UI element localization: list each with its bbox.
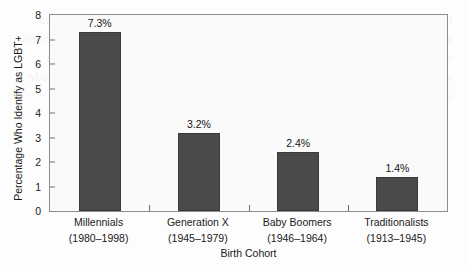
y-tick-label: 3 — [10, 132, 50, 143]
x-axis-separator-tick — [348, 205, 349, 211]
y-tick-label: 4 — [10, 108, 50, 119]
x-tick-label: Millennials(1980–1998) — [49, 216, 148, 245]
y-tick-label: 8 — [10, 10, 50, 21]
cohort-years: (1913–1945) — [347, 232, 446, 246]
x-tick-label: Generation X(1945–1979) — [148, 216, 247, 245]
cohort-name: Millennials — [49, 216, 148, 230]
cohort-years: (1946–1964) — [248, 232, 347, 246]
plot-inner: 0123456787.3%3.2%2.4%1.4% — [50, 15, 447, 211]
y-tick-mark — [50, 186, 55, 187]
y-tick-label: 2 — [10, 157, 50, 168]
cohort-name: Traditionalists — [347, 216, 446, 230]
bar-value-label: 7.3% — [60, 17, 140, 29]
x-tick-label: Traditionalists(1913–1945) — [347, 216, 446, 245]
cohort-years: (1980–1998) — [49, 232, 148, 246]
y-tick-mark — [50, 162, 55, 163]
cohort-name: Generation X — [148, 216, 247, 230]
y-tick-label: 5 — [10, 83, 50, 94]
bar — [376, 177, 418, 211]
cohort-years: (1945–1979) — [148, 232, 247, 246]
y-tick-label: 0 — [10, 206, 50, 217]
y-tick-mark — [50, 64, 55, 65]
plot-area: 0123456787.3%3.2%2.4%1.4% — [49, 14, 448, 212]
bar-value-label: 1.4% — [357, 162, 437, 174]
x-axis-separator-tick — [249, 205, 250, 211]
figure: the percentage of adults in the younger … — [0, 0, 468, 270]
bar-value-label: 3.2% — [159, 118, 239, 130]
bar — [277, 152, 319, 211]
bar-value-label: 2.4% — [258, 137, 338, 149]
bar — [178, 133, 220, 211]
x-axis-title: Birth Cohort — [49, 247, 448, 260]
bar — [79, 32, 121, 211]
x-tick-label: Baby Boomers(1946–1964) — [248, 216, 347, 245]
x-axis-separator-tick — [149, 205, 150, 211]
y-tick-label: 7 — [10, 34, 50, 45]
cohort-name: Baby Boomers — [248, 216, 347, 230]
y-tick-label: 6 — [10, 59, 50, 70]
y-tick-mark — [50, 137, 55, 138]
y-tick-mark — [50, 113, 55, 114]
y-tick-mark — [50, 88, 55, 89]
y-tick-mark — [50, 39, 55, 40]
y-tick-label: 1 — [10, 181, 50, 192]
